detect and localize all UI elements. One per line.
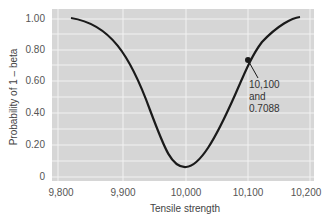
y-tick: 0.20 [26,139,46,150]
annotation-line-1: 10,100 [249,79,280,90]
plot-area [52,9,314,181]
y-tick: 0.40 [26,107,46,118]
chart: 10,100 and 0.7088 0 0.20 0.40 0.60 0.80 … [0,0,326,216]
highlight-point [245,57,251,63]
y-tick: 0.80 [26,44,46,55]
y-axis-label: Probability of 1 – beta [8,48,19,145]
annotation-line-3: 0.7088 [249,103,280,114]
x-tick-labels: 9,800 9,900 10,000 10,100 10,200 [48,187,321,198]
y-tick: 1.00 [26,13,46,24]
x-tick: 10,100 [233,187,264,198]
x-tick: 9,900 [110,187,135,198]
x-tick: 10,200 [291,187,322,198]
y-tick: 0.60 [26,75,46,86]
y-tick-labels: 0 0.20 0.40 0.60 0.80 1.00 [26,13,46,182]
y-tick: 0 [39,171,45,182]
annotation-line-2: and [249,91,266,102]
x-tick: 9,800 [48,187,73,198]
x-axis-label: Tensile strength [150,203,220,214]
x-tick: 10,000 [171,187,202,198]
